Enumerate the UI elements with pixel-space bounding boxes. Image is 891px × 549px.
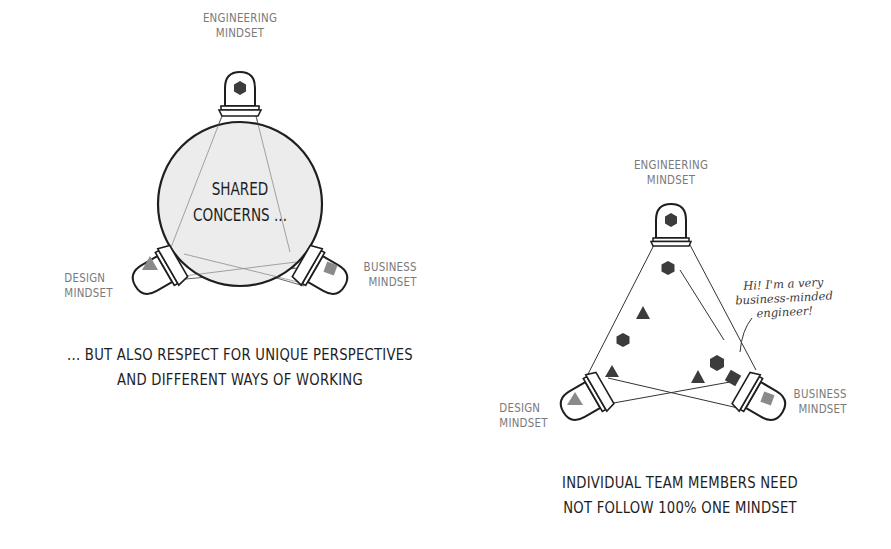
diagrams-canvas: [0, 0, 891, 549]
left-design-label: DESIGN MINDSET: [64, 270, 121, 300]
right-engineering-label: ENGINEERING MINDSET: [626, 157, 716, 187]
team-member-square-icon: [725, 370, 741, 386]
label-line: MINDSET: [64, 285, 121, 300]
label-line: ENGINEERING: [626, 157, 716, 172]
label-line: MINDSET: [781, 401, 847, 416]
speech-note: Hi! I'm a very business-minded engineer!: [727, 274, 841, 322]
caption-line: AND DIFFERENT WAYS OF WORKING: [48, 367, 432, 392]
team-member-hexagon-icon: [662, 261, 675, 275]
right-caption: INDIVIDUAL TEAM MEMBERS NEED NOT FOLLOW …: [536, 470, 824, 520]
right-business-label: BUSINESS MINDSET: [781, 386, 847, 416]
label-line: MINDSET: [626, 172, 716, 187]
engineering-bulb-right: [651, 204, 691, 246]
label-line: ENGINEERING: [195, 10, 285, 25]
caption-line: NOT FOLLOW 100% ONE MINDSET: [536, 495, 824, 520]
speech-pointer: [740, 318, 752, 352]
team-member-hexagon-icon: [710, 355, 724, 371]
center-line: CONCERNS ...: [184, 202, 296, 228]
label-line: BUSINESS: [351, 259, 417, 274]
label-line: DESIGN: [499, 400, 556, 415]
shared-concerns-text: SHARED CONCERNS ...: [184, 176, 296, 228]
label-line: BUSINESS: [781, 386, 847, 401]
label-line: MINDSET: [195, 25, 285, 40]
design-bulb-right: [553, 370, 616, 430]
caption-line: INDIVIDUAL TEAM MEMBERS NEED: [536, 470, 824, 495]
team-member-triangle-icon: [636, 306, 650, 319]
right-design-label: DESIGN MINDSET: [499, 400, 556, 430]
left-caption: ... BUT ALSO RESPECT FOR UNIQUE PERSPECT…: [48, 342, 432, 392]
left-engineering-label: ENGINEERING MINDSET: [195, 10, 285, 40]
team-member-hexagon-icon: [617, 333, 630, 347]
team-member-triangle-icon: [691, 370, 705, 383]
label-line: MINDSET: [499, 415, 556, 430]
engineering-bulb: [219, 72, 261, 116]
caption-line: ... BUT ALSO RESPECT FOR UNIQUE PERSPECT…: [48, 342, 432, 367]
label-line: MINDSET: [351, 274, 417, 289]
left-business-label: BUSINESS MINDSET: [351, 259, 417, 289]
team-members: [605, 261, 741, 386]
label-line: DESIGN: [64, 270, 121, 285]
team-member-triangle-icon: [605, 365, 619, 377]
center-line: SHARED: [184, 176, 296, 202]
